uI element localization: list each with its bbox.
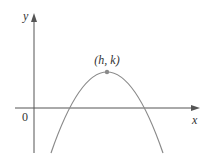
parabola-diagram: y x 0 (h, k)	[0, 0, 210, 161]
origin-label: 0	[22, 110, 28, 124]
y-axis-label: y	[22, 9, 29, 23]
x-axis-arrow	[191, 105, 200, 111]
vertex-label: (h, k)	[94, 53, 119, 67]
y-axis-arrow	[31, 13, 37, 22]
parabola-curve	[51, 72, 163, 153]
x-axis-label: x	[191, 113, 198, 127]
vertex-point	[105, 70, 109, 74]
